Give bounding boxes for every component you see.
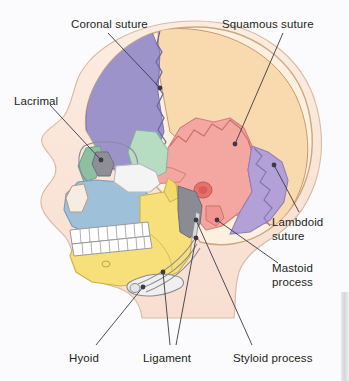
label-coronal-suture: Coronal suture bbox=[71, 18, 148, 32]
hyoid-leader bbox=[96, 287, 143, 345]
label-lacrimal: Lacrimal bbox=[14, 95, 58, 109]
ligament-leader-a-dot bbox=[161, 270, 166, 275]
squamous-suture-leader-dot bbox=[233, 142, 238, 147]
skull-diagram: Coronal suture Squamous suture Lacrimal … bbox=[0, 0, 349, 381]
mastoid-process-leader-dot bbox=[215, 218, 220, 223]
label-styloid-process: Styloid process bbox=[233, 352, 312, 366]
label-mastoid-process: Mastoid process bbox=[272, 262, 313, 289]
lambdoid-suture-leader-dot bbox=[272, 163, 277, 168]
label-ligament: Ligament bbox=[143, 352, 191, 366]
label-squamous-suture: Squamous suture bbox=[222, 18, 314, 32]
ligament-leader-b-dot bbox=[194, 236, 199, 241]
skull-illustration bbox=[0, 0, 349, 381]
label-lambdoid-suture: Lambdoid suture bbox=[272, 216, 323, 243]
hyoid-leader-dot bbox=[141, 285, 146, 290]
coronal-suture-leader-dot bbox=[158, 86, 163, 91]
styloid-process-leader-dot bbox=[194, 218, 199, 223]
lacrimal-leader-dot bbox=[99, 158, 104, 163]
page-edge-strip bbox=[341, 292, 349, 381]
label-hyoid: Hyoid bbox=[69, 352, 99, 366]
